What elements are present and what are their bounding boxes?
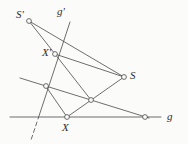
point-x xyxy=(65,115,70,120)
label-x-prime: X' xyxy=(42,47,51,58)
line-axis-of-perspectivity xyxy=(20,78,149,118)
label-x: X xyxy=(62,122,69,133)
line-g-prime xyxy=(38,22,70,119)
lines-group xyxy=(10,21,161,140)
line-g-prime-extension xyxy=(31,122,37,140)
point-intersection-center xyxy=(89,98,94,103)
label-g-prime: g' xyxy=(57,6,65,17)
geometry-figure: S'g'X'SXg xyxy=(0,0,188,144)
segment-x-prime-to-x xyxy=(47,88,67,117)
segment-x-prime-to-s xyxy=(55,54,124,77)
segment-x-prime-to-center xyxy=(55,54,91,100)
geometry-canvas xyxy=(0,0,188,144)
label-s-prime: S' xyxy=(16,9,24,20)
segment-x-through-center-to-s xyxy=(67,77,124,117)
point-intersection-left-axis xyxy=(44,84,49,89)
point-x-prime xyxy=(53,52,58,57)
point-intersection-right-on-g xyxy=(143,115,148,120)
label-g: g xyxy=(167,111,173,122)
point-s-prime xyxy=(27,19,32,24)
point-s xyxy=(122,75,127,80)
label-s: S xyxy=(130,70,136,81)
